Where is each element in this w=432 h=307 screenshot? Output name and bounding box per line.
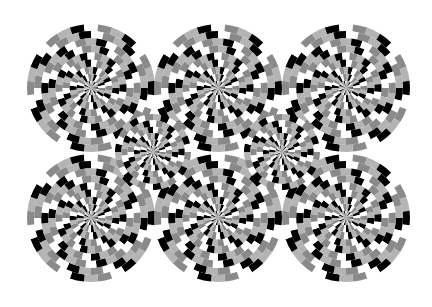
illusion-canvas (0, 0, 432, 307)
illusion-disk (244, 114, 320, 190)
illusion-disk (115, 114, 191, 190)
